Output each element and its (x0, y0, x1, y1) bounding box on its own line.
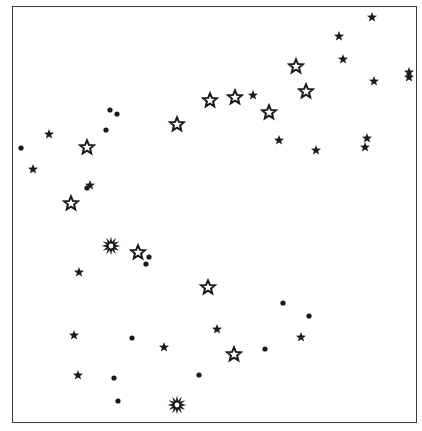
dot-icon (103, 127, 109, 133)
dot-icon (262, 346, 268, 352)
starburst-icon (101, 236, 121, 256)
filled-star-icon (69, 330, 80, 341)
filled-star-icon (44, 129, 55, 140)
dot-icon (196, 372, 202, 378)
open-star-icon (228, 90, 243, 105)
open-star-icon (64, 196, 79, 211)
dot-icon (280, 300, 286, 306)
filled-star-icon (311, 145, 322, 156)
open-star-icon (262, 105, 277, 120)
filled-star-icon (248, 90, 259, 101)
filled-star-icon (334, 31, 345, 42)
open-star-icon (131, 245, 146, 260)
dot-icon (115, 398, 121, 404)
filled-star-icon (404, 72, 415, 83)
open-star-icon (201, 280, 216, 295)
dot-icon (306, 313, 312, 319)
filled-star-icon (28, 164, 39, 175)
chart-frame (12, 6, 417, 423)
filled-star-icon (73, 370, 84, 381)
dot-icon (129, 335, 135, 341)
open-star-icon (227, 347, 242, 362)
filled-star-icon (212, 324, 223, 335)
filled-star-icon (367, 12, 378, 23)
open-star-icon (299, 84, 314, 99)
open-star-icon (289, 59, 304, 74)
filled-star-icon (85, 180, 96, 191)
dot-icon (114, 111, 120, 117)
dot-icon (146, 254, 152, 260)
dot-icon (107, 107, 113, 113)
open-star-icon (203, 93, 218, 108)
dot-icon (143, 261, 149, 267)
filled-star-icon (74, 267, 85, 278)
open-star-icon (170, 117, 185, 132)
starburst-icon (167, 395, 187, 415)
filled-star-icon (369, 76, 380, 87)
open-star-icon (80, 140, 95, 155)
dot-icon (111, 375, 117, 381)
filled-star-icon (159, 342, 170, 353)
filled-star-icon (274, 135, 285, 146)
dot-icon (18, 145, 24, 151)
filled-star-icon (296, 332, 307, 343)
filled-star-icon (338, 54, 349, 65)
star-chart (0, 0, 422, 431)
filled-star-icon (360, 142, 371, 153)
